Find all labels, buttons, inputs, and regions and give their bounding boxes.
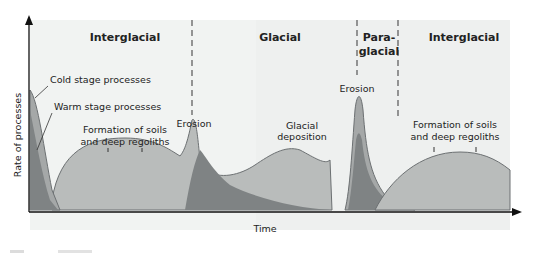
soils-label-1-line1: Formation of soils xyxy=(83,124,167,135)
soils-label-2-line1: Formation of soils xyxy=(413,119,497,130)
caption-remnant xyxy=(58,250,92,253)
soils-label-2-line2: and deep regoliths xyxy=(410,131,499,142)
phase-label-glacial: Glacial xyxy=(259,31,301,44)
x-axis-arrow-icon xyxy=(512,208,522,216)
glacial-deposition-label-1: Glacial xyxy=(286,120,318,131)
x-axis-label: Time xyxy=(252,223,276,234)
phase-label-paraglacial-2: glacial xyxy=(359,45,400,58)
cold-stage-label: Cold stage processes xyxy=(50,74,151,85)
erosion-label-1: Erosion xyxy=(177,118,212,129)
soils-label-1-line2: and deep regoliths xyxy=(80,136,169,147)
warm-stage-label: Warm stage processes xyxy=(54,101,161,112)
y-axis-label: Rate of processes xyxy=(12,93,23,177)
phase-label-interglacial-2: Interglacial xyxy=(429,31,500,44)
erosion-label-2: Erosion xyxy=(340,83,375,94)
phase-label-paraglacial-1: Para- xyxy=(363,31,396,44)
glacial-deposition-label-2: deposition xyxy=(277,131,327,142)
phase-label-interglacial-1: Interglacial xyxy=(90,31,161,44)
glacial-cycle-diagram: Interglacial Glacial Para- glacial Inter… xyxy=(0,0,533,256)
caption-remnant xyxy=(10,250,24,253)
